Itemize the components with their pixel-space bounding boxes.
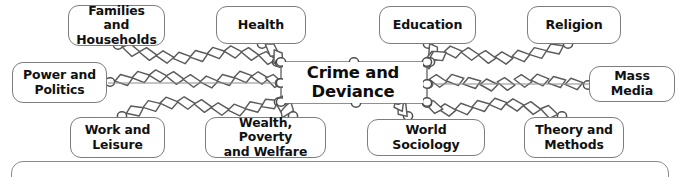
node-education[interactable]: Education bbox=[379, 6, 476, 44]
bottom-caption-panel bbox=[11, 161, 669, 177]
node-label-families-and-households: Families and Households bbox=[74, 4, 159, 47]
node-power-and-politics[interactable]: Power and Politics bbox=[12, 62, 107, 103]
node-world-sociology[interactable]: World Sociology bbox=[367, 119, 485, 156]
node-label-world-sociology: World Sociology bbox=[373, 123, 479, 152]
centre-node-label: Crime and Deviance bbox=[307, 64, 399, 101]
node-label-theory-and-methods: Theory and Methods bbox=[535, 123, 613, 152]
node-label-mass-media: Mass Media bbox=[595, 69, 669, 98]
chain-education-to-centre bbox=[422, 40, 442, 70]
node-theory-and-methods[interactable]: Theory and Methods bbox=[524, 117, 624, 158]
node-label-power-and-politics: Power and Politics bbox=[23, 68, 96, 97]
node-health[interactable]: Health bbox=[216, 6, 306, 44]
node-mass-media[interactable]: Mass Media bbox=[589, 66, 675, 102]
chain-massmedia-to-centre bbox=[423, 73, 592, 92]
chain-power-to-centre bbox=[105, 70, 284, 90]
node-religion[interactable]: Religion bbox=[527, 6, 621, 44]
concept-map-canvas: Crime and Deviance Families and Househol… bbox=[0, 0, 680, 177]
node-label-religion: Religion bbox=[545, 18, 602, 33]
centre-node-crime-and-deviance[interactable]: Crime and Deviance bbox=[283, 62, 423, 103]
node-families-and-households[interactable]: Families and Households bbox=[68, 5, 165, 46]
node-label-health: Health bbox=[238, 18, 284, 33]
node-work-and-leisure[interactable]: Work and Leisure bbox=[70, 117, 165, 158]
node-label-work-and-leisure: Work and Leisure bbox=[85, 123, 151, 152]
node-label-education: Education bbox=[393, 18, 463, 33]
node-wealth-poverty-and-welfare[interactable]: Wealth, Poverty and Welfare bbox=[205, 117, 326, 158]
node-label-wealth-poverty-and-welfare: Wealth, Poverty and Welfare bbox=[211, 116, 320, 159]
